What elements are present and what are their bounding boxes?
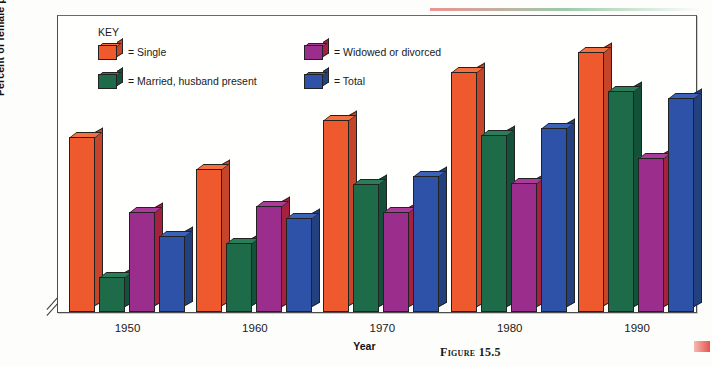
bar-face — [159, 236, 185, 311]
bar — [159, 236, 185, 311]
bar — [129, 212, 155, 311]
bar-face — [451, 72, 477, 312]
bar-side — [567, 118, 575, 307]
bar-face — [129, 212, 155, 311]
x-tick-label: 1950 — [68, 322, 188, 334]
x-axis-title: Year — [353, 340, 375, 352]
legend-swatch-side — [117, 38, 123, 57]
bar — [451, 72, 477, 312]
bar-face — [99, 277, 125, 312]
legend-swatch-side — [323, 38, 329, 57]
bar-face — [383, 212, 409, 312]
bar-face — [578, 52, 604, 311]
bar — [668, 98, 694, 312]
bar — [323, 120, 349, 311]
bar — [578, 52, 604, 311]
legend-title: KEY — [98, 26, 526, 38]
legend-item[interactable]: = Married, husband present — [98, 72, 257, 89]
legend-swatch — [98, 43, 117, 60]
bar-face — [226, 243, 252, 311]
bar-face — [541, 128, 567, 312]
x-tick-label: 1990 — [577, 322, 697, 334]
legend-swatch-face — [304, 74, 323, 89]
bar — [226, 243, 252, 311]
bar-face — [511, 183, 537, 312]
bar — [511, 183, 537, 312]
bar-side — [694, 88, 702, 307]
figure-caption: Figure 15.5 — [440, 345, 501, 360]
bar-side — [439, 166, 447, 306]
bar-face — [196, 169, 222, 311]
print-artifact-corner — [694, 341, 710, 352]
bar-face — [323, 120, 349, 311]
bar-face — [413, 176, 439, 312]
legend-swatch-side — [323, 67, 329, 86]
bar — [99, 277, 125, 312]
legend-swatch-face — [304, 45, 323, 60]
figure-container: Percent of female population working 706… — [0, 0, 712, 366]
bar — [69, 137, 95, 311]
bar — [353, 184, 379, 312]
bar-face — [353, 184, 379, 312]
bar — [638, 158, 664, 312]
bar-face — [286, 218, 312, 312]
bar-face — [481, 135, 507, 312]
x-tick-label: 1980 — [450, 322, 570, 334]
print-artifact-top — [430, 8, 700, 11]
legend-swatch — [304, 43, 323, 60]
legend-label: = Single — [128, 46, 166, 58]
x-tick-label: 1970 — [322, 322, 442, 334]
x-tick-label: 1960 — [195, 322, 315, 334]
bar-side — [185, 227, 193, 307]
legend-label: = Widowed or divorced — [334, 46, 441, 58]
y-axis-title: Percent of female population working — [0, 0, 6, 96]
bar — [608, 91, 634, 312]
legend-item[interactable]: = Widowed or divorced — [304, 43, 441, 60]
bar — [196, 169, 222, 311]
legend-swatch — [304, 72, 323, 89]
bar-face — [69, 137, 95, 311]
bar — [256, 206, 282, 312]
bar — [413, 176, 439, 312]
bar-face — [256, 206, 282, 312]
legend-swatch-face — [98, 74, 117, 89]
bar — [481, 135, 507, 312]
legend-swatch-side — [117, 67, 123, 86]
legend-swatch-face — [98, 45, 117, 60]
bar-group — [578, 17, 695, 312]
bar-side — [312, 208, 320, 306]
legend-swatch — [98, 72, 117, 89]
bar-face — [638, 158, 664, 312]
legend-label: = Total — [334, 75, 365, 87]
bar — [286, 218, 312, 312]
legend-item[interactable]: = Total — [304, 72, 365, 89]
bar-face — [668, 98, 694, 312]
legend-item[interactable]: = Single — [98, 43, 166, 60]
bar — [541, 128, 567, 312]
bar — [383, 212, 409, 312]
legend: KEY = Single= Married, husband present= … — [96, 26, 526, 95]
bar-face — [608, 91, 634, 312]
legend-label: = Married, husband present — [128, 75, 257, 87]
